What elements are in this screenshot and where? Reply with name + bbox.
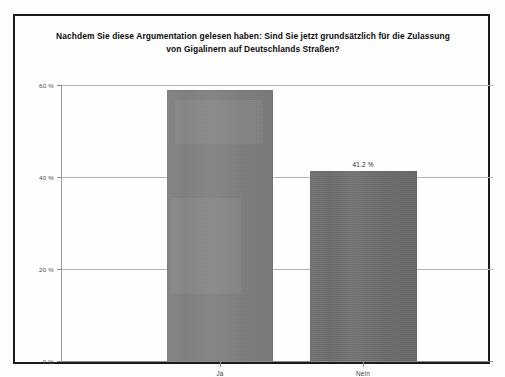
x-tick-nein (363, 362, 364, 367)
y-tick-label-40: 40 % (39, 174, 54, 181)
y-axis-line (61, 85, 62, 362)
bar-nein[interactable] (310, 171, 417, 361)
bar-ja[interactable] (167, 90, 273, 361)
tick-40 (57, 177, 62, 178)
bar-value-nein: 41.2 % (352, 161, 373, 168)
chart-frame: Nachdem Sie diese Argumentation gelesen … (13, 14, 490, 364)
gridline-20 (61, 269, 493, 270)
bar-scan-artifact (175, 100, 263, 144)
y-tick-label-20: 20 % (39, 266, 54, 273)
y-tick-label-0: 0 % (43, 358, 54, 365)
tick-60 (57, 85, 62, 86)
plot-area: 60 % 40 % 20 % 0 % 41.2 % Ja (61, 71, 493, 362)
y-tick-label-60: 60 % (39, 82, 54, 89)
tick-0 (57, 361, 62, 362)
x-label-ja: Ja (216, 370, 223, 377)
x-tick-ja (220, 362, 221, 367)
x-label-nein: Nein (356, 370, 370, 377)
tick-20 (57, 269, 62, 270)
gridline-0-baseline (61, 361, 493, 362)
bar-scan-artifact (171, 198, 241, 294)
gridline-40 (61, 177, 493, 178)
gridline-60 (61, 85, 493, 86)
chart-title: Nachdem Sie diese Argumentation gelesen … (33, 30, 473, 55)
